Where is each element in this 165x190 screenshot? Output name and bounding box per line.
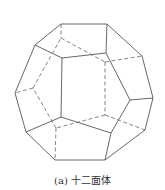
dodecahedron-diagram — [0, 0, 165, 170]
hidden-edge — [61, 38, 105, 62]
visible-edge — [106, 24, 107, 53]
hidden-edge — [105, 115, 145, 130]
visible-edge — [35, 45, 62, 58]
figure-caption: (a) 十二面体 — [0, 172, 165, 187]
visible-edge — [142, 56, 153, 98]
hidden-edge — [56, 115, 105, 128]
visible-edge — [15, 93, 26, 132]
visible-edge — [62, 53, 106, 58]
visible-edge — [145, 98, 153, 130]
hidden-edge — [55, 128, 56, 160]
visible-edge — [130, 98, 153, 100]
hidden-edge — [33, 38, 61, 88]
visible-edge — [61, 58, 62, 117]
visible-edge — [26, 132, 55, 160]
hidden-edge — [15, 88, 33, 93]
visible-edge — [61, 117, 111, 133]
hidden-edge — [33, 88, 56, 128]
visible-edge — [111, 100, 130, 133]
visible-edge — [35, 24, 61, 45]
visible-edge — [107, 24, 142, 56]
visible-edge — [15, 45, 35, 93]
